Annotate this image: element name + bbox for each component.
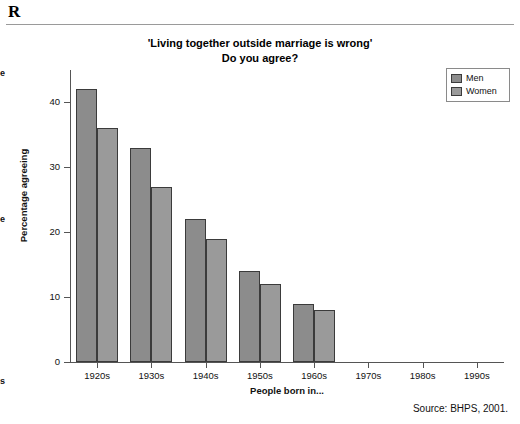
legend-label: Women <box>466 86 497 97</box>
x-axis-tick <box>368 363 369 368</box>
y-axis-tick-label: 20 <box>6 226 60 237</box>
bar-women-1950s <box>260 284 281 362</box>
chart-legend: MenWomen <box>446 68 510 102</box>
bar-men-1950s <box>239 271 260 362</box>
x-axis-tick-label-1960s: 1960s <box>284 370 344 381</box>
x-axis-tick <box>314 363 315 368</box>
chart-title: 'Living together outside marriage is wro… <box>60 36 460 66</box>
legend-item-women: Women <box>451 85 505 98</box>
chart-title-line-1: 'Living together outside marriage is wro… <box>60 36 460 51</box>
x-axis-tick <box>477 363 478 368</box>
legend-label: Men <box>466 73 484 84</box>
legend-swatch-icon <box>451 87 462 96</box>
bar-men-1940s <box>185 219 206 362</box>
x-axis-tick-label-1940s: 1940s <box>176 370 236 381</box>
x-axis-tick-label-1920s: 1920s <box>67 370 127 381</box>
bar-women-1960s <box>314 310 335 362</box>
bar-women-1940s <box>206 239 227 362</box>
legend-swatch-icon <box>451 74 462 83</box>
legend-item-men: Men <box>451 72 505 85</box>
y-axis-tick <box>64 232 71 233</box>
bar-men-1960s <box>293 304 314 362</box>
x-axis-label: People born in... <box>70 385 504 396</box>
y-axis-tick <box>64 362 71 363</box>
bar-men-1920s <box>76 89 97 362</box>
bar-women-1930s <box>151 187 172 362</box>
x-axis-tick-label-1930s: 1930s <box>121 370 181 381</box>
y-axis-tick <box>64 297 71 298</box>
y-axis-tick-label: 30 <box>6 161 60 172</box>
y-axis-tick <box>64 102 71 103</box>
y-axis-tick-label: 10 <box>6 291 60 302</box>
y-axis-label: Percentage agreeing <box>18 121 29 271</box>
bar-chart: 'Living together outside marriage is wro… <box>0 0 520 424</box>
bar-men-1930s <box>130 148 151 362</box>
chart-title-line-2: Do you agree? <box>60 51 460 66</box>
x-axis-tick-label-1970s: 1970s <box>338 370 398 381</box>
y-axis-line <box>70 70 71 363</box>
x-axis-tick-label-1950s: 1950s <box>230 370 290 381</box>
x-axis-tick-label-1980s: 1980s <box>393 370 453 381</box>
source-note: Source: BHPS, 2001. <box>413 403 508 414</box>
x-axis-tick <box>260 363 261 368</box>
x-axis-tick <box>151 363 152 368</box>
x-axis-tick <box>97 363 98 368</box>
bar-women-1920s <box>97 128 118 362</box>
y-axis-tick-label: 0 <box>6 356 60 367</box>
y-axis-tick-label: 40 <box>6 96 60 107</box>
x-axis-tick <box>423 363 424 368</box>
x-axis-line <box>70 362 504 363</box>
y-axis-tick <box>64 167 71 168</box>
x-axis-tick <box>206 363 207 368</box>
x-axis-tick-label-1990s: 1990s <box>447 370 507 381</box>
